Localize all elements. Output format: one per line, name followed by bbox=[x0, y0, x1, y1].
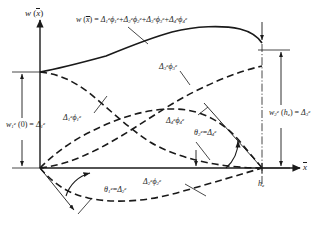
main-equation: w (x) = Δ1eϕ1e+Δ2eϕ2e+Δ3eϕ3e+Δ4eϕ4e bbox=[76, 16, 187, 25]
leader-delta1phi1 bbox=[94, 96, 107, 113]
curve-label-delta2-phi2: Δ2eϕ2e bbox=[143, 178, 161, 187]
theta2-label: θ2e=Δ4e bbox=[194, 129, 217, 138]
curve-total-deflection bbox=[40, 27, 262, 72]
right-endpoint-value-label: w2e (he) = Δ3e bbox=[269, 109, 310, 118]
theta1-label: θ1e=Δ2e bbox=[104, 186, 127, 195]
leader-delta3phi3 bbox=[180, 71, 190, 85]
angle-arc-theta2 bbox=[226, 141, 238, 168]
y-axis-label: w (x) bbox=[25, 9, 43, 18]
curve-label-delta4-phi4: Δ4eϕ4e bbox=[166, 117, 184, 126]
figure-canvas: w (x) x w (x) = Δ1eϕ1e+Δ2eϕ2e+Δ3eϕ3e+Δ4e… bbox=[0, 0, 326, 229]
leader-theta2-to-tangent bbox=[196, 142, 210, 160]
leader-equation-to-curve bbox=[128, 27, 148, 44]
curve-label-delta1-phi1: Δ1eϕ1e bbox=[63, 114, 81, 123]
leader-theta1-label bbox=[78, 198, 92, 214]
x-axis-label: x bbox=[303, 163, 307, 172]
curve-label-delta3-phi3: Δ3eϕ3e bbox=[159, 63, 177, 72]
x-tick-label-he: he bbox=[258, 180, 264, 189]
left-endpoint-value-label: w1e (0) = Δ1e bbox=[6, 121, 45, 130]
